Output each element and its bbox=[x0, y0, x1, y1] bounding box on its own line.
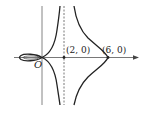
point-6-0 bbox=[107, 56, 110, 59]
curve-right-branch bbox=[74, 6, 108, 105]
origin-label: O bbox=[34, 59, 42, 70]
x-axis-arrow-icon bbox=[133, 55, 139, 59]
curve-diagram: O (2, 0) (6, 0) bbox=[0, 0, 144, 117]
curve-left-branch-upper bbox=[42, 6, 60, 58]
point-2-0 bbox=[63, 56, 66, 59]
curve-left-branch-lower bbox=[42, 58, 60, 106]
point-b-label: (6, 0) bbox=[102, 45, 126, 55]
point-a-label: (2, 0) bbox=[66, 45, 90, 55]
